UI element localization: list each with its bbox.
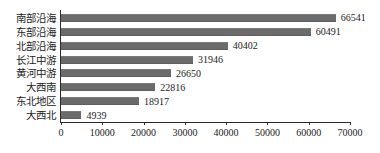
bar-container: 18917 [61, 94, 380, 108]
x-tick-mark [144, 122, 145, 125]
bar-container: 22816 [61, 80, 380, 94]
bar-series: 南部沿海66541东部沿海60491北部沿海40402长江中游31946黄河中游… [0, 11, 380, 122]
bar-container: 26650 [61, 67, 380, 81]
bar [61, 42, 228, 50]
bar [61, 69, 171, 77]
bar [61, 28, 311, 36]
bar-row: 东部沿海60491 [0, 25, 380, 39]
bar-container: 60491 [61, 25, 380, 39]
x-tick-label: 20000 [131, 127, 156, 139]
bar-row: 黄河中游26650 [0, 67, 380, 81]
x-tick-label: 10000 [90, 127, 115, 139]
bar-container: 4939 [61, 108, 380, 122]
category-label: 北部沿海 [0, 40, 56, 52]
bar-row: 南部沿海66541 [0, 11, 380, 25]
category-label: 东北地区 [0, 95, 56, 107]
bar-value-label: 22816 [160, 82, 185, 93]
x-tick-label: 30000 [172, 127, 197, 139]
bar [61, 111, 81, 119]
bar [61, 14, 336, 22]
x-tick-mark [309, 122, 310, 125]
bar-container: 66541 [61, 11, 380, 25]
bar-value-label: 4939 [86, 110, 106, 121]
bar-value-label: 66541 [341, 12, 366, 23]
x-tick-label: 0 [59, 127, 64, 139]
bar [61, 56, 193, 64]
bar-container: 40402 [61, 39, 380, 53]
x-tick-mark [226, 122, 227, 125]
category-label: 大西南 [0, 81, 56, 93]
bar-row: 大西北4939 [0, 108, 380, 122]
bar-row: 东北地区18917 [0, 94, 380, 108]
bar [61, 83, 155, 91]
x-tick-label: 50000 [255, 127, 280, 139]
bar [61, 97, 139, 105]
bar-value-label: 18917 [144, 96, 169, 107]
bar-value-label: 31946 [198, 54, 223, 65]
x-tick-mark [350, 122, 351, 125]
x-tick-mark [102, 122, 103, 125]
bar-row: 长江中游31946 [0, 53, 380, 67]
x-axis-ticks: 010000200003000040000500006000070000 [0, 122, 380, 146]
bar-value-label: 40402 [233, 40, 258, 51]
bar-container: 31946 [61, 53, 380, 67]
x-tick-label: 70000 [338, 127, 363, 139]
bar-row: 大西南22816 [0, 80, 380, 94]
x-tick-label: 60000 [296, 127, 321, 139]
bar-row: 北部沿海40402 [0, 39, 380, 53]
bar-chart: 南部沿海66541东部沿海60491北部沿海40402长江中游31946黄河中游… [0, 0, 380, 153]
category-label: 南部沿海 [0, 12, 56, 24]
bar-value-label: 60491 [316, 26, 341, 37]
category-label: 东部沿海 [0, 26, 56, 38]
category-label: 黄河中游 [0, 67, 56, 79]
x-tick-mark [61, 122, 62, 125]
category-label: 大西北 [0, 109, 56, 121]
x-tick-label: 40000 [214, 127, 239, 139]
x-tick-mark [267, 122, 268, 125]
bar-value-label: 26650 [176, 68, 201, 79]
category-label: 长江中游 [0, 54, 56, 66]
x-tick-mark [185, 122, 186, 125]
